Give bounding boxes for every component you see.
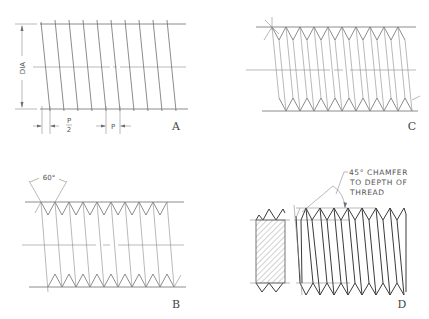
view-a-half-pitch-dimension: P 2 — [33, 117, 72, 134]
arrow-down-icon — [21, 102, 24, 108]
view-d-label: D — [398, 298, 407, 311]
dia-label: DIA — [19, 62, 27, 74]
view-b: 60° B — [22, 173, 186, 311]
view-d-threaded-body — [294, 205, 406, 295]
thread-drawing-canvas: DIA P 2 P A — [0, 0, 429, 319]
view-a-dia-dimension: DIA — [15, 24, 37, 109]
view-a-crest-lines — [41, 20, 176, 111]
view-d: 45° CHAMFER TO DEPTH OF THREAD D — [250, 168, 408, 311]
arrow-up-icon — [21, 25, 24, 31]
pitch-label: P — [111, 123, 115, 131]
view-b-bottom-thread-vees — [48, 274, 181, 287]
view-d-helix-lines — [306, 208, 404, 295]
angle-label: 60° — [43, 174, 55, 182]
chamfer-note-line2: TO DEPTH OF — [349, 178, 407, 187]
view-a-pitch-dimension: P — [96, 123, 131, 131]
view-c: C — [246, 17, 420, 133]
half-pitch-numerator: P — [67, 117, 71, 125]
view-a-pitch-ticks — [42, 106, 120, 134]
view-a-label: A — [171, 120, 181, 133]
chamfer-note-line3: THREAD — [349, 188, 385, 197]
half-pitch-denominator: 2 — [67, 126, 71, 134]
view-b-label: B — [172, 298, 180, 311]
view-c-bottom-thread-vees — [279, 96, 420, 111]
view-a: DIA P 2 P A — [15, 20, 188, 134]
view-b-60-degree-dimension: 60° — [29, 173, 67, 202]
view-d-chamfer-note: 45° CHAMFER TO DEPTH OF THREAD — [302, 168, 408, 212]
view-b-crest-lines — [41, 202, 174, 292]
view-b-top-thread-vees — [35, 202, 167, 215]
view-c-label: C — [408, 120, 416, 133]
view-d-section-piece — [250, 209, 290, 292]
chamfer-note-line1: 45° CHAMFER — [349, 168, 408, 177]
